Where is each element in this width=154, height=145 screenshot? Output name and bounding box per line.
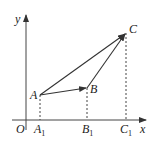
point-C-label: C bbox=[129, 22, 138, 36]
foot-A1-label: A1 bbox=[33, 122, 45, 138]
vector-diagram: y x O A B C A1 B1 C1 bbox=[0, 0, 154, 145]
vector-AC bbox=[40, 34, 125, 95]
foot-B1-label: B1 bbox=[82, 122, 93, 138]
foot-C1-label: C1 bbox=[120, 122, 132, 138]
point-B-label: B bbox=[90, 82, 98, 96]
x-axis-label: x bbox=[139, 122, 146, 136]
vector-BC bbox=[87, 34, 125, 88]
vector-AB bbox=[40, 88, 86, 95]
point-A-label: A bbox=[29, 88, 38, 102]
origin-label: O bbox=[16, 122, 25, 136]
y-axis-label: y bbox=[14, 12, 21, 26]
